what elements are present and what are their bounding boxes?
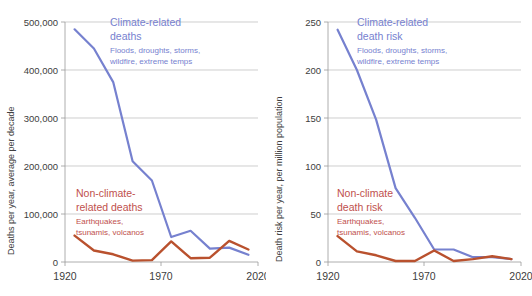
left-nonclimate-annotation-sub1: Earthquakes, (76, 217, 123, 226)
right-climate-annotation-sub2: wildfire, extreme temps (356, 57, 439, 66)
left-nonclimate-deaths-line (75, 236, 249, 261)
left-climate-annotation-line2: deaths (110, 30, 142, 42)
right-ytick-label-200: 200 (305, 65, 321, 76)
right-xtick-label-2020: 2020 (509, 270, 532, 282)
left-ytick-label-100000: 100,000 (24, 209, 58, 220)
right-y-axis-title: Death risk per year, per million populat… (274, 96, 284, 262)
left-nonclimate-annotation-line1: Non-climate- (76, 187, 136, 199)
left-ytick-label-0: 0 (53, 257, 58, 268)
right-x-tickmarks (328, 262, 521, 266)
left-nonclimate-annotation-sub2: tsunamis, volcanos (76, 228, 144, 237)
left-xtick-label-1970: 1970 (149, 270, 173, 282)
right-nonclimate-risk-line (337, 236, 511, 261)
left-y-tickmarks (61, 22, 65, 262)
left-climate-annotation: Climate-related deaths Floods, droughts,… (109, 16, 200, 66)
right-ytick-label-0: 0 (315, 257, 320, 268)
right-xtick-label-1970: 1970 (412, 270, 436, 282)
left-xtick-label-2020: 2020 (246, 270, 266, 282)
right-y-tickmarks (324, 22, 328, 262)
left-climate-annotation-line1: Climate-related (110, 16, 181, 28)
right-nonclimate-annotation-line2: death risk (337, 201, 383, 213)
left-ytick-label-200000: 200,000 (24, 161, 58, 172)
right-nonclimate-annotation-sub2: tsunamis, volcanos (337, 228, 405, 237)
right-ytick-label-150: 150 (305, 113, 321, 124)
left-nonclimate-annotation-line2: related deaths (76, 201, 143, 213)
right-nonclimate-annotation-sub1: Earthquakes, (337, 217, 384, 226)
right-ytick-label-250: 250 (305, 17, 321, 28)
right-ytick-label-100: 100 (305, 161, 321, 172)
right-climate-annotation-line1: Climate-related (357, 16, 428, 28)
right-climate-annotation: Climate-related death risk Floods, droug… (356, 16, 447, 66)
left-chart-panel: Deaths per year, average per decade (0, 0, 266, 296)
left-ytick-label-300000: 300,000 (24, 113, 58, 124)
right-chart-panel: Death risk per year, per million populat… (266, 0, 532, 296)
right-climate-annotation-line2: death risk (357, 30, 403, 42)
left-ytick-label-500000: 500,000 (24, 17, 58, 28)
right-nonclimate-annotation: Non-climate death risk Earthquakes, tsun… (337, 187, 405, 237)
right-ytick-label-50: 50 (310, 209, 321, 220)
left-ytick-label-400000: 400,000 (24, 65, 58, 76)
left-nonclimate-annotation: Non-climate- related deaths Earthquakes,… (76, 187, 144, 237)
left-chart-svg: Deaths per year, average per decade (0, 0, 266, 296)
right-nonclimate-annotation-line1: Non-climate (337, 187, 393, 199)
right-xtick-label-1920: 1920 (316, 270, 340, 282)
left-xtick-label-1920: 1920 (53, 270, 77, 282)
left-y-axis-title: Deaths per year, average per decade (6, 106, 16, 255)
left-x-tickmarks (65, 262, 258, 266)
right-climate-annotation-sub1: Floods, droughts, storms, (357, 46, 447, 55)
left-climate-annotation-sub1: Floods, droughts, storms, (110, 46, 200, 55)
right-chart-svg: Death risk per year, per million populat… (266, 0, 532, 296)
left-climate-annotation-sub2: wildfire, extreme temps (109, 57, 192, 66)
